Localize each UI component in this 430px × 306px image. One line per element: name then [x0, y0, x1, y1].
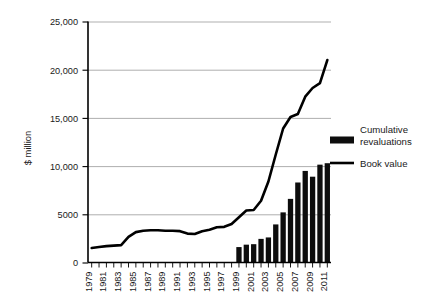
y-tick-label: 20,000: [50, 66, 78, 76]
legend-label-cumulative-revaluations-line1: Cumulative: [360, 124, 408, 135]
x-tick-label: 2007: [290, 272, 300, 292]
bar: [236, 247, 241, 262]
y-ticks-group: 0500010,00015,00020,00025,000: [50, 17, 88, 268]
bar: [295, 182, 300, 262]
y-tick-label: 5000: [58, 210, 78, 220]
bar: [273, 224, 278, 262]
x-tick-label: 1995: [202, 272, 212, 292]
x-tick-label: 1979: [84, 272, 94, 292]
x-tick-label: 2011: [319, 272, 329, 292]
x-tick-label: 1993: [187, 272, 197, 292]
bar: [258, 239, 263, 263]
x-tick-label: 1989: [157, 272, 167, 292]
bar: [317, 165, 322, 263]
x-tick-label: 2009: [305, 272, 315, 292]
bar: [288, 199, 293, 263]
x-tick-label: 2001: [246, 272, 256, 292]
y-tick-label: 15,000: [50, 114, 78, 124]
bar: [266, 237, 271, 262]
bar: [310, 177, 315, 263]
y-axis-title: $ million: [22, 131, 33, 165]
x-tick-label: 2005: [275, 272, 285, 292]
legend-swatch-cumulative-revaluations: [330, 137, 354, 144]
x-tick-label: 1981: [98, 272, 108, 292]
bars-group: [236, 163, 330, 262]
y-tick-label: 0: [73, 258, 78, 268]
x-tick-label: 2003: [260, 272, 270, 292]
x-tick-label: 1985: [128, 272, 138, 292]
legend-label-cumulative-revaluations-line2: revaluations: [360, 136, 412, 147]
x-tick-label: 1997: [216, 272, 226, 292]
x-tick-labels-group: 1979198119831985198719891991199319951997…: [84, 272, 330, 292]
gridlines-group: [88, 22, 331, 215]
x-tick-label: 1999: [231, 272, 241, 292]
x-tick-label: 1983: [113, 272, 123, 292]
chart-svg: 0500010,00015,00020,00025,000 1979198119…: [0, 0, 430, 306]
chart-legend: Cumulative revaluations Book value: [330, 124, 412, 169]
bar: [325, 163, 330, 262]
bar: [244, 245, 249, 263]
chart-figure: 0500010,00015,00020,00025,000 1979198119…: [0, 0, 430, 306]
bar: [303, 171, 308, 263]
y-tick-label: 10,000: [50, 162, 78, 172]
bar: [280, 212, 285, 262]
x-tick-label: 1991: [172, 272, 182, 292]
bar: [251, 244, 256, 262]
y-tick-label: 25,000: [50, 17, 78, 27]
x-tick-label: 1987: [143, 272, 153, 292]
legend-label-book-value: Book value: [360, 158, 407, 169]
